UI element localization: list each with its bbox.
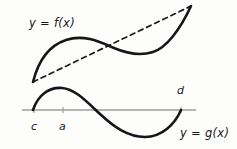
math-figure: y = f(x) y = g(x) c a d [0,0,237,149]
axis-label-d: d [177,85,184,96]
curve-g-label: y = g(x) [180,128,229,140]
axis-label-a: a [59,121,66,132]
curve-g-of-x [33,88,181,137]
curve-f-label: y = f(x) [29,18,75,30]
axis-label-c: c [31,121,37,132]
